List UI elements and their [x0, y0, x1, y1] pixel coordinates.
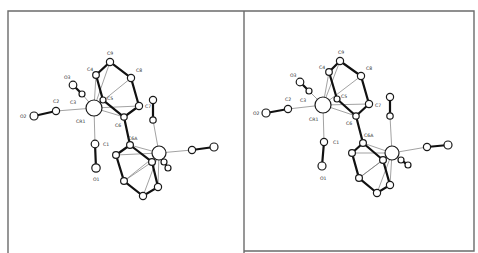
atom-label: C3 — [300, 98, 306, 103]
atom-label: C9 — [338, 50, 344, 55]
atom-label: C5 — [107, 96, 113, 101]
atom-label: C3 — [70, 100, 76, 105]
atoms — [262, 57, 452, 196]
atom-label: C5 — [341, 94, 347, 99]
atom-label: C4 — [319, 65, 325, 70]
atom-label: C2 — [53, 99, 59, 104]
atom-label: CR1 — [309, 117, 318, 122]
cr1-atom — [86, 100, 102, 116]
thick-bonds — [266, 61, 448, 193]
atom-label: O3 — [290, 73, 297, 78]
cr1-atom — [315, 97, 331, 113]
atom-label: O2 — [253, 111, 260, 116]
atom-label: C7 — [145, 104, 151, 109]
stereo-figure: C9C4C8O3C2C3C5C7O2CR1C6C6AC1O1 — [0, 0, 478, 253]
atom-label: C6 — [346, 121, 352, 126]
atom-label: C8 — [366, 66, 372, 71]
atom-label: C4 — [87, 67, 93, 72]
atom-label: C1 — [103, 142, 109, 147]
cr2-atom — [152, 146, 166, 160]
atom-label: C2 — [285, 97, 291, 102]
cr2-atom — [385, 146, 399, 160]
atom-label: C9 — [107, 51, 113, 56]
atom-label: C6A — [364, 133, 374, 138]
molecule-left: C9C4C8O3C2C3C5C7O2CR1C6C6AC1O1 — [20, 51, 218, 200]
thin-bonds — [56, 62, 192, 196]
atom-labels-right: C9C4C8O3C2C3C5C7O2CR1C6C6AC1O1 — [253, 50, 381, 181]
molecule-right: C9C4C8O3C2C3C5C7O2CR1C6C6AC1O1 — [253, 50, 452, 197]
atom-label: C6A — [128, 136, 138, 141]
atom-label: C7 — [375, 103, 381, 108]
atom-label: C6 — [115, 123, 121, 128]
figure-frame — [8, 11, 474, 253]
atom-label: CR1 — [76, 119, 85, 124]
atom-label: C8 — [136, 68, 142, 73]
atoms — [30, 58, 218, 199]
atom-label: O1 — [320, 176, 327, 181]
atom-labels-left: C9C4C8O3C2C3C5C7O2CR1C6C6AC1O1 — [20, 51, 151, 182]
atom-label: C1 — [333, 140, 339, 145]
atom-label: O3 — [64, 75, 71, 80]
atom-label: O2 — [20, 114, 27, 119]
thick-bonds — [34, 62, 214, 196]
atom-label: O1 — [93, 177, 100, 182]
